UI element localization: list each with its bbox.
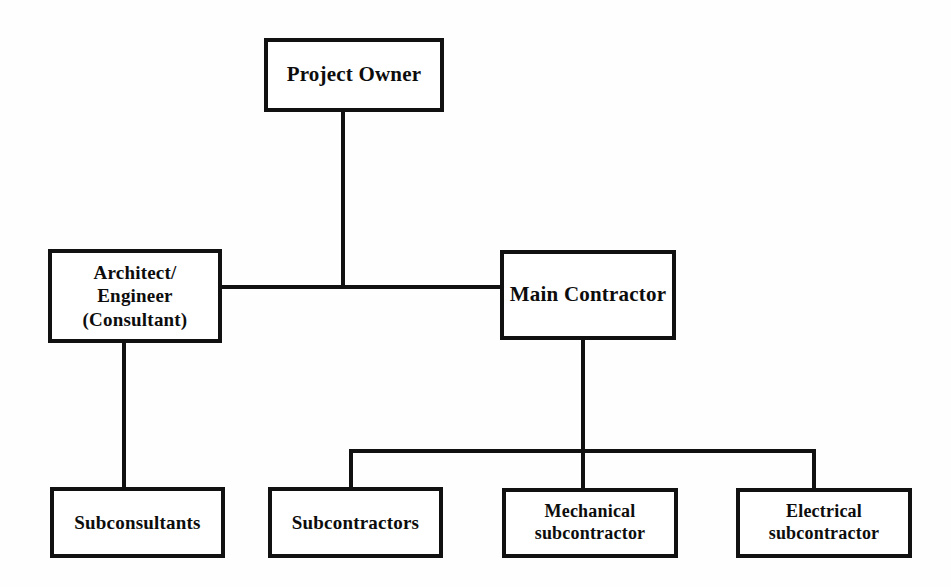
- node-label-project-owner: Project Owner: [283, 62, 426, 88]
- connector-owner-to-bus: [341, 112, 345, 289]
- node-project-owner[interactable]: Project Owner: [264, 38, 444, 112]
- node-main-contractor[interactable]: Main Contractor: [500, 250, 676, 340]
- connector-bus-to-electrical: [812, 449, 816, 490]
- org-chart-canvas: Project Owner Architect/ Engineer (Consu…: [0, 0, 951, 587]
- connector-bus-to-subcontractors: [349, 449, 353, 489]
- connector-architect-to-subconsultants: [122, 343, 126, 489]
- node-label-main-contractor: Main Contractor: [506, 282, 670, 308]
- node-label-architect-engineer: Architect/ Engineer (Consultant): [79, 261, 192, 331]
- node-architect-engineer[interactable]: Architect/ Engineer (Consultant): [48, 249, 222, 343]
- node-label-mechanical-subcontractor: Mechanical subcontractor: [531, 501, 650, 545]
- node-subconsultants[interactable]: Subconsultants: [50, 487, 225, 558]
- connector-level2-bus: [220, 285, 502, 289]
- connector-level3-bus: [349, 449, 816, 453]
- node-electrical-subcontractor[interactable]: Electrical subcontractor: [736, 488, 912, 558]
- node-subcontractors[interactable]: Subcontractors: [268, 487, 443, 558]
- node-label-electrical-subcontractor: Electrical subcontractor: [765, 501, 884, 545]
- node-label-subconsultants: Subconsultants: [70, 511, 204, 534]
- node-mechanical-subcontractor[interactable]: Mechanical subcontractor: [502, 488, 678, 558]
- connector-contractor-to-bus: [581, 340, 585, 490]
- node-label-subcontractors: Subcontractors: [288, 511, 423, 534]
